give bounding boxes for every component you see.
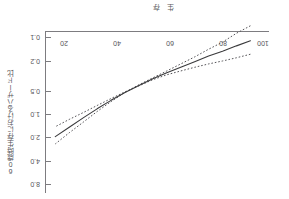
confidence-upper-line bbox=[55, 26, 250, 144]
figure-canvas: 生存 0.1 0.2 0.5 1.0 2.0 4.0 8.0 20 40 60 … bbox=[0, 0, 289, 199]
chart-curves bbox=[0, 0, 289, 199]
confidence-lower-line bbox=[55, 54, 250, 126]
hazard-ratio-line bbox=[55, 41, 250, 137]
